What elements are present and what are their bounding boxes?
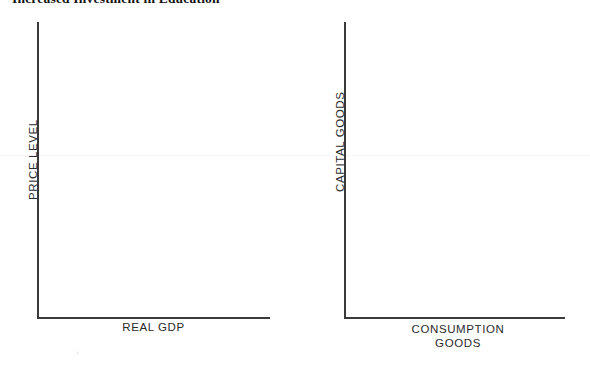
plot-area [38,22,270,318]
y-axis-label: CAPITAL GOODS [334,92,346,192]
y-axis-label: PRICE LEVEL [27,119,39,200]
chart-aggregate-demand-supply: PRICE LEVEL REAL GDP [0,0,295,367]
x-axis-line [37,317,270,319]
x-axis-label: CONSUMPTION GOODS [388,322,528,350]
x-axis-line [344,317,565,319]
x-axis-label: REAL GDP [97,320,210,334]
chart-production-possibilities: CAPITAL GOODS CONSUMPTION GOODS [295,0,590,367]
plot-area [345,22,565,318]
